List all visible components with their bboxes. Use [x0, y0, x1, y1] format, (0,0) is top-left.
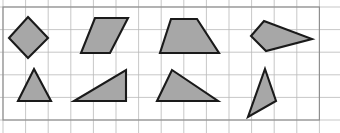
grid-lines	[0, 0, 340, 133]
grid-layer	[0, 0, 340, 133]
shapes-worksheet	[0, 0, 340, 133]
